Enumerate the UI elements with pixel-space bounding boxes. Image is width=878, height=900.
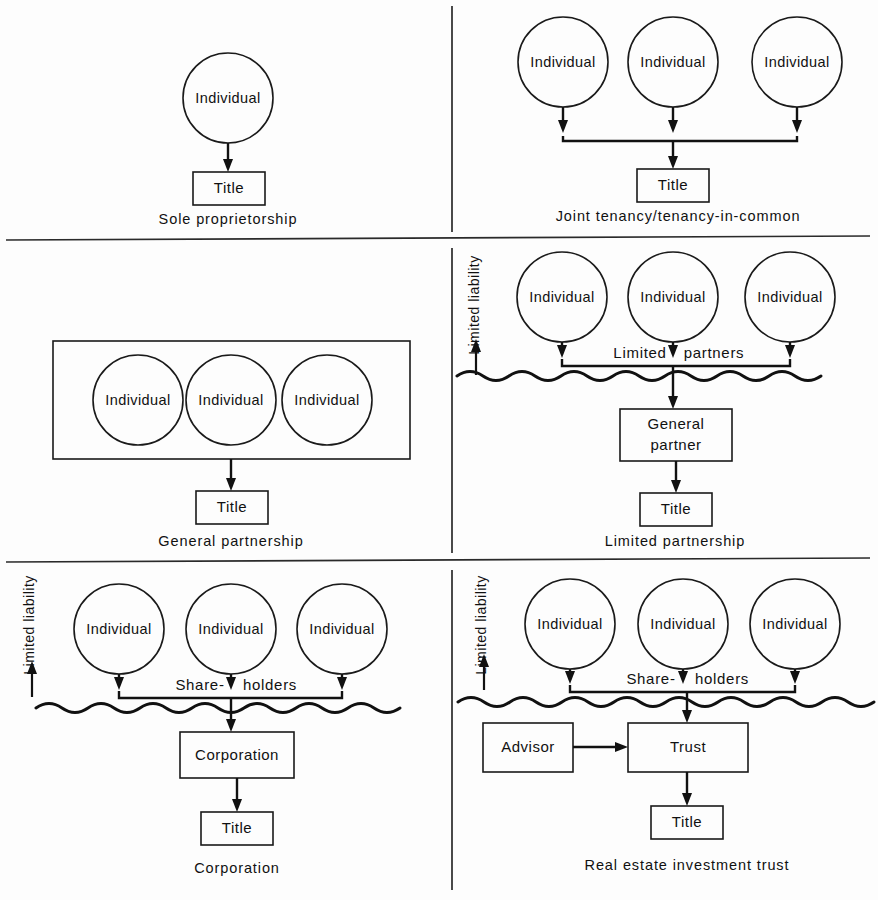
arrowhead-down-icon-1: [558, 120, 568, 133]
divider-horizontal-lower: [6, 558, 870, 562]
panel-limited-partnership: Limited liability Individual Individual …: [457, 252, 835, 549]
panel-joint-tenancy: Individual Individual Individual Title J…: [518, 17, 842, 224]
circle-individual-label: Individual: [195, 90, 260, 106]
divider-horizontal-upper: [6, 236, 870, 240]
box-title-label: Title: [661, 500, 691, 517]
circle-individual-1-label: Individual: [105, 392, 170, 408]
caption-joint-tenancy: Joint tenancy/tenancy-in-common: [556, 208, 801, 224]
wavy-liability-boundary: [36, 704, 400, 713]
arrowhead-down-icon-2: [678, 671, 688, 684]
panel-corporation: Limited liability Individual Individual …: [21, 575, 400, 876]
panel-general-partnership: Individual Individual Individual Title G…: [53, 341, 410, 549]
caption-reit: Real estate investment trust: [585, 857, 790, 873]
circle-individual-2-label: Individual: [198, 392, 263, 408]
arrowhead-down-icon-5: [671, 480, 681, 493]
connector-bus-bar: [562, 359, 790, 366]
caption-corporation: Corporation: [194, 860, 280, 876]
arrowhead-down-icon-4: [682, 710, 692, 723]
limited-liability-label: Limited liability: [21, 575, 37, 675]
panel-reit: Limited liability Individual Individual …: [458, 575, 874, 873]
box-corporation-label: Corporation: [195, 746, 279, 763]
circle-individual-3-label: Individual: [294, 392, 359, 408]
panel-dividers: [6, 6, 870, 890]
arrowhead-down-icon-5: [682, 793, 692, 806]
box-title-label: Title: [222, 819, 252, 836]
circle-individual-3-label: Individual: [309, 621, 374, 637]
circle-individual-2-label: Individual: [650, 616, 715, 632]
circle-individual-1-label: Individual: [86, 621, 151, 637]
tier-label-limited-partners-right: partners: [684, 344, 745, 361]
arrowhead-down-icon-2: [226, 677, 236, 690]
tier-label-shareholders-left: Share-: [175, 676, 224, 693]
limited-liability-axis: Limited liability: [473, 575, 489, 690]
arrowhead-down-icon-4: [668, 156, 678, 169]
circle-individual-1-label: Individual: [537, 616, 602, 632]
circle-individual-1-label: Individual: [529, 289, 594, 305]
arrowhead-down-icon-1: [565, 671, 575, 684]
arrowhead-down-icon: [223, 159, 233, 172]
arrowhead-down-icon-4: [226, 719, 236, 732]
box-general-partner-label-line2: partner: [650, 436, 701, 453]
connector-bus-bar: [570, 685, 795, 692]
tier-label-shareholders-left: Share-: [626, 670, 675, 687]
arrowhead-down-icon-5: [232, 799, 242, 812]
tier-label-limited-partners-left: Limited: [613, 344, 666, 361]
connector-bus-bar: [119, 691, 342, 698]
circle-individual-3-label: Individual: [762, 616, 827, 632]
arrowhead-down-icon-1: [557, 345, 567, 358]
caption-sole-proprietorship: Sole proprietorship: [159, 211, 298, 227]
circle-individual-2-label: Individual: [640, 54, 705, 70]
diagram-canvas: Individual Title Sole proprietorship Ind…: [0, 0, 878, 900]
box-title-label: Title: [217, 498, 247, 515]
arrowhead-down-icon-2: [668, 120, 678, 133]
wavy-liability-boundary: [458, 698, 874, 707]
arrowhead-down-icon-3: [790, 671, 800, 684]
wavy-liability-boundary: [457, 372, 821, 381]
panel-sole-proprietorship: Individual Title Sole proprietorship: [159, 53, 298, 227]
arrowhead-down-icon-2: [668, 345, 678, 358]
box-title-label: Title: [214, 179, 244, 196]
tier-label-shareholders-right: holders: [695, 670, 749, 687]
caption-general-partnership: General partnership: [158, 533, 303, 549]
connector-bus-bar: [563, 136, 797, 141]
circle-individual-2-label: Individual: [198, 621, 263, 637]
arrowhead-right-icon: [615, 742, 628, 752]
arrowhead-down-icon: [226, 478, 236, 491]
circle-individual-2-label: Individual: [640, 289, 705, 305]
box-advisor-label: Advisor: [501, 738, 555, 755]
tier-label-shareholders-right: holders: [243, 676, 297, 693]
box-general-partner-label-line1: General: [648, 415, 705, 432]
limited-liability-axis: Limited liability: [21, 575, 37, 697]
box-title-label: Title: [658, 176, 688, 193]
arrowhead-down-icon-1: [114, 677, 124, 690]
box-title-label: Title: [672, 813, 702, 830]
arrowhead-down-icon-3: [792, 120, 802, 133]
arrowhead-down-icon-4: [668, 396, 678, 409]
box-trust-label: Trust: [670, 738, 706, 755]
arrowhead-down-icon-3: [785, 345, 795, 358]
limited-liability-label: Limited liability: [466, 255, 482, 355]
circle-individual-3-label: Individual: [757, 289, 822, 305]
caption-limited-partnership: Limited partnership: [605, 533, 745, 549]
limited-liability-label: Limited liability: [473, 575, 489, 675]
arrowhead-down-icon-3: [337, 677, 347, 690]
circle-individual-3-label: Individual: [764, 54, 829, 70]
circle-individual-1-label: Individual: [530, 54, 595, 70]
limited-liability-axis: Limited liability: [466, 255, 482, 375]
